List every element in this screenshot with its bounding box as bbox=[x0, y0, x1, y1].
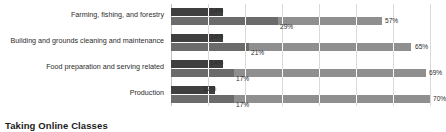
chart-row: Food preparation and serving related 14%… bbox=[0, 56, 443, 82]
bar-lower[interactable] bbox=[171, 95, 430, 103]
row-bar-group: 14% 17% 69% bbox=[171, 59, 443, 81]
category-label: Farming, fishing, and forestry bbox=[0, 10, 164, 19]
row-bar-group: 14% 21% 65% bbox=[171, 33, 443, 55]
value-label-mid: 17% bbox=[236, 101, 249, 109]
value-label-upper: 14% bbox=[210, 59, 223, 67]
category-label: Food preparation and serving related bbox=[0, 62, 164, 71]
bar-lower[interactable] bbox=[171, 43, 412, 51]
row-bar-group: 14% 29% 57% bbox=[171, 7, 443, 29]
category-label: Building and grounds cleaning and mainte… bbox=[0, 36, 164, 45]
value-label-upper: 14% bbox=[210, 33, 223, 41]
value-label-total: 65% bbox=[415, 43, 428, 51]
section-heading: Taking Online Classes bbox=[5, 120, 108, 131]
value-label-total: 57% bbox=[385, 17, 398, 25]
bar-chart: Farming, fishing, and forestry 14% 29% 5… bbox=[0, 0, 443, 110]
chart-row: Production 12% 17% 70% bbox=[0, 82, 443, 108]
bar-lower[interactable] bbox=[171, 17, 382, 25]
value-label-upper: 14% bbox=[210, 7, 223, 15]
value-label-upper: 12% bbox=[203, 85, 216, 93]
category-label: Production bbox=[0, 88, 164, 97]
chart-row: Building and grounds cleaning and mainte… bbox=[0, 30, 443, 56]
row-bar-group: 12% 17% 70% bbox=[171, 85, 443, 107]
bar-lower[interactable] bbox=[171, 69, 426, 77]
value-label-total: 70% bbox=[433, 95, 446, 103]
chart-row: Farming, fishing, and forestry 14% 29% 5… bbox=[0, 4, 443, 30]
value-label-total: 69% bbox=[429, 69, 442, 77]
